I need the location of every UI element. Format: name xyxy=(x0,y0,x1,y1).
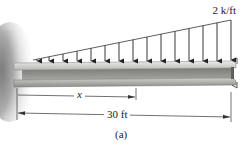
length-dimension-label: 30 ft xyxy=(104,108,130,120)
cantilever-beam-diagram: 2 k/ft x 30 ft (a) xyxy=(0,0,246,146)
diagram-canvas xyxy=(0,0,246,146)
figure-caption: (a) xyxy=(115,128,127,140)
wide-flange-beam xyxy=(14,58,237,88)
load-intensity-label: 2 k/ft xyxy=(212,4,236,16)
triangular-distributed-load xyxy=(33,20,231,61)
x-dimension-label: x xyxy=(74,88,85,100)
